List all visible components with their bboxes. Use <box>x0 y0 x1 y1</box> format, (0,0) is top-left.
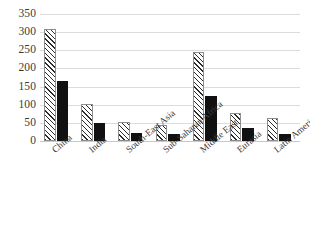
y-axis: 050100150200250300350 <box>0 0 36 225</box>
bar-group <box>81 14 105 141</box>
bar-group <box>44 14 68 141</box>
bar-hatched[interactable] <box>44 29 56 141</box>
bar-hatched[interactable] <box>81 104 93 141</box>
y-tick-label: 350 <box>0 8 36 19</box>
y-tick-label: 300 <box>0 26 36 37</box>
bar-chart: 050100150200250300350 ChinaIndiaSouth-Ea… <box>0 0 310 225</box>
bar-group <box>267 14 291 141</box>
y-tick-label: 0 <box>0 135 36 146</box>
bar-hatched[interactable] <box>118 122 130 141</box>
y-tick-label: 100 <box>0 99 36 110</box>
y-tick-label: 250 <box>0 44 36 55</box>
y-tick-label: 200 <box>0 62 36 73</box>
bar-hatched[interactable] <box>267 118 279 141</box>
bar-group <box>118 14 142 141</box>
y-tick-label: 50 <box>0 117 36 128</box>
plot-area <box>40 14 300 141</box>
y-tick-label: 150 <box>0 81 36 92</box>
